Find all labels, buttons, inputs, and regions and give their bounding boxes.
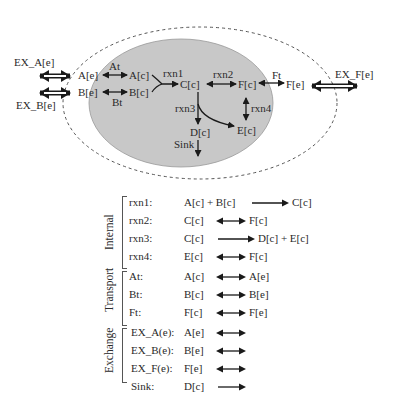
label-A-cyt: A[c]: [129, 69, 149, 81]
reaction-lhs: D[c]: [184, 381, 204, 392]
category-exchange: Exchange: [103, 328, 115, 373]
forward-arrow-icon: [216, 234, 257, 244]
label-B-cyt: B[c]: [129, 86, 149, 98]
label-Ft: Ft: [272, 69, 281, 81]
label-B-ext: B[e]: [78, 86, 98, 98]
reaction-rhs: F[c]: [249, 215, 267, 226]
reaction-name: EX_A(e):: [131, 327, 174, 338]
reversible-arrow-icon: [216, 252, 248, 262]
reaction-rhs: D[c] + E[c]: [258, 233, 309, 244]
forward-arrow-icon: [250, 198, 291, 208]
label-sink: Sink: [174, 138, 195, 150]
label-F-cyt: F[c]: [238, 78, 256, 90]
bracket-transport: [122, 271, 127, 326]
label-rxn3: rxn3: [175, 102, 196, 114]
label-rxn4: rxn4: [251, 102, 272, 114]
label-rxn2: rxn2: [213, 68, 233, 80]
reaction-rhs: F[e]: [249, 307, 267, 318]
reversible-arrow-icon: [216, 308, 248, 318]
label-C-cyt: C[c]: [180, 78, 200, 90]
reaction-name: Sink:: [131, 381, 154, 392]
reaction-lhs: A[c]: [184, 271, 204, 282]
reaction-name: EX_F(e):: [131, 363, 173, 374]
reaction-lhs: A[c] + B[c]: [184, 197, 235, 208]
label-EX_A: EX_A[e]: [14, 56, 54, 68]
reaction-name: rxn4:: [129, 251, 152, 262]
bracket-internal: [122, 196, 127, 269]
label-EX_B: EX_B[e]: [16, 99, 56, 111]
category-internal: Internal: [103, 214, 115, 250]
reaction-lhs: F[c]: [184, 307, 202, 318]
label-E-cyt: E[c]: [237, 124, 256, 136]
reaction-lhs: F[e]: [184, 363, 202, 374]
reaction-name: Bt:: [129, 289, 142, 300]
reversible-arrow-icon: [216, 216, 248, 226]
reaction-rhs: B[e]: [249, 289, 269, 300]
reaction-name: At:: [129, 271, 143, 282]
reaction-rhs: C[c]: [292, 197, 312, 208]
reaction-name: Ft:: [129, 307, 141, 318]
category-transport: Transport: [103, 268, 115, 312]
reaction-lhs: E[c]: [184, 251, 203, 262]
reaction-name: rxn2:: [129, 215, 152, 226]
reversible-arrow-icon: [216, 328, 248, 338]
reversible-arrow-icon: [216, 364, 248, 374]
reaction-rhs: F[c]: [249, 251, 267, 262]
label-F-ext: F[e]: [286, 78, 304, 90]
label-Bt: Bt: [112, 96, 122, 108]
forward-arrow-icon: [216, 382, 248, 392]
label-At: At: [109, 60, 120, 72]
reaction-lhs: B[e]: [184, 345, 204, 356]
label-A-ext: A[e]: [78, 69, 98, 81]
reaction-lhs: C[c]: [184, 215, 204, 226]
reversible-arrow-icon: [216, 290, 248, 300]
reaction-lhs: B[c]: [184, 289, 204, 300]
bracket-exchange: [122, 328, 127, 383]
reversible-arrow-icon: [216, 272, 248, 282]
reaction-name: EX_B(e):: [131, 345, 174, 356]
label-D-cyt: D[c]: [190, 126, 210, 138]
reaction-lhs: A[e]: [184, 327, 204, 338]
reversible-arrow-icon: [216, 346, 248, 356]
label-EX_F: EX_F[e]: [335, 68, 374, 80]
reaction-lhs: C[c]: [184, 233, 204, 244]
reaction-name: rxn3:: [129, 233, 152, 244]
reaction-rhs: A[e]: [249, 271, 269, 282]
reaction-name: rxn1:: [129, 197, 152, 208]
